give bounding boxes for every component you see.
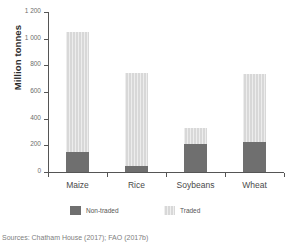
x-axis-tick [48,173,49,177]
y-axis-title: Million tonnes [12,3,23,113]
bar-segment-traded [243,74,266,142]
source-note: Sources: Chatham House (2017); FAO (2017… [2,234,148,241]
y-axis-tick-label: 0 [1,167,41,174]
y-axis-tick-label: 400 [1,114,41,121]
y-axis-tick-label: 1 000 [1,34,41,41]
y-axis-tick: 800 [44,65,49,66]
y-axis-tick-label: 1 200 [1,7,41,14]
bar-rice [125,73,148,172]
y-axis-tick: 600 [44,92,49,93]
legend-item-non-traded: Non-traded [70,206,119,215]
x-axis-label-wheat: Wheat [215,180,293,190]
x-axis-tick [284,173,285,177]
bar-segment-non-traded [125,166,148,172]
x-axis-tick [166,173,167,177]
y-axis-tick: 1 000 [44,39,49,40]
bar-segment-non-traded [243,142,266,172]
legend-swatch-icon [70,206,81,215]
legend-item-traded: Traded [164,206,200,215]
x-axis-tick [107,173,108,177]
y-axis-tick-label: 200 [1,140,41,147]
bar-segment-traded [66,32,89,152]
plot-area: 1 2001 0008006004002000 [48,12,284,173]
bar-wheat [243,74,266,172]
y-axis-tick: 400 [44,119,49,120]
legend-label: Traded [180,207,200,214]
chart-figure: Million tonnes 1 2001 0008006004002000 M… [0,0,292,243]
y-axis-tick-label: 800 [1,60,41,67]
y-axis-tick-label: 600 [1,87,41,94]
bar-maize [66,32,89,172]
bar-segment-non-traded [66,152,89,172]
y-axis-tick: 200 [44,145,49,146]
legend-label: Non-traded [86,207,119,214]
bar-segment-traded [125,73,148,165]
chart-legend: Non-tradedTraded [48,206,284,220]
legend-swatch-icon [164,206,175,215]
bar-segment-traded [184,128,207,144]
bar-soybeans [184,128,207,172]
bar-segment-non-traded [184,144,207,172]
x-axis-tick [225,173,226,177]
y-axis-tick: 1 200 [44,12,49,13]
x-axis-line [45,172,284,173]
